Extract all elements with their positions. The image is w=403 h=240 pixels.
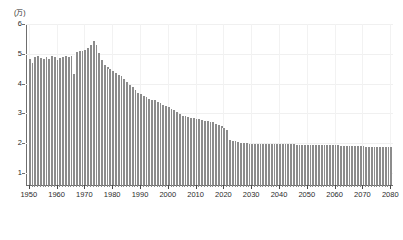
x-axis-tick-minor [201,185,202,187]
x-axis-tick-minor [329,185,330,187]
x-axis-tick-minor [298,185,299,187]
x-axis-tick-minor [312,185,313,187]
x-axis-tick-label: 2070 [354,191,371,199]
y-axis-tick-label: 5 [2,50,22,58]
x-axis-tick-minor [260,185,261,187]
x-axis-tick-label: 2030 [243,191,260,199]
x-axis-tick-minor [240,185,241,187]
x-axis-tick-minor [59,185,60,187]
x-axis-tick-minor [171,185,172,187]
x-axis-tick-minor [190,185,191,187]
x-axis-tick-minor [343,185,344,187]
x-axis-tick-major [112,185,113,189]
x-axis-tick-minor [374,185,375,187]
x-axis-tick-minor [354,185,355,187]
x-axis-tick-minor [198,185,199,187]
x-axis-tick-label: 2050 [298,191,315,199]
x-axis-tick-minor [271,185,272,187]
x-axis-tick-minor [123,185,124,187]
x-axis-tick-minor [318,185,319,187]
x-axis-tick-minor [134,185,135,187]
x-axis-tick-minor [268,185,269,187]
x-axis-tick-minor [276,185,277,187]
x-axis-tick-minor [126,185,127,187]
x-axis-tick-minor [254,185,255,187]
y-axis-tick-mark [22,143,25,144]
x-axis-tick-label: 2060 [326,191,343,199]
x-axis-tick-major [168,185,169,189]
x-axis-tick-label: 1950 [20,191,37,199]
x-axis-tick-minor [90,185,91,187]
x-axis-tick-minor [118,185,119,187]
x-axis-tick-minor [96,185,97,187]
x-axis-tick-minor [87,185,88,187]
x-axis-ticks: 1950196019701980199020002010202020302040… [26,185,393,211]
x-axis-tick-major [29,185,30,189]
x-axis-tick-minor [232,185,233,187]
x-axis-tick-label: 2020 [215,191,232,199]
x-axis-tick-minor [287,185,288,187]
x-axis-tick-major [196,185,197,189]
x-axis-tick-minor [43,185,44,187]
x-axis-tick-minor [332,185,333,187]
x-axis-tick-minor [76,185,77,187]
x-axis-tick-minor [187,185,188,187]
y-axis-tick-mark [22,113,25,114]
x-axis-tick-minor [387,185,388,187]
x-axis-tick-minor [282,185,283,187]
x-axis-tick-minor [210,185,211,187]
x-axis-tick-minor [132,185,133,187]
x-axis-tick-minor [237,185,238,187]
x-axis-tick-minor [257,185,258,187]
x-axis-tick-minor [98,185,99,187]
x-axis-tick-minor [321,185,322,187]
x-axis-tick-minor [51,185,52,187]
x-axis-tick-minor [121,185,122,187]
x-axis-tick-minor [176,185,177,187]
y-axis-tick-label: 2 [2,140,22,148]
x-axis-tick-minor [107,185,108,187]
x-axis-tick-minor [360,185,361,187]
y-axis-tick-label: 6 [2,20,22,28]
x-axis-tick-minor [323,185,324,187]
x-axis-tick-minor [248,185,249,187]
x-axis-tick-minor [79,185,80,187]
x-axis-tick-minor [385,185,386,187]
x-axis-tick-minor [301,185,302,187]
x-axis-tick-minor [115,185,116,187]
x-axis-tick-minor [179,185,180,187]
x-axis-tick-label: 1960 [48,191,65,199]
x-axis-tick-minor [159,185,160,187]
x-axis-tick-label: 2080 [382,191,399,199]
x-axis-tick-minor [273,185,274,187]
x-axis-tick-minor [368,185,369,187]
x-axis-tick-minor [109,185,110,187]
x-axis-tick-minor [215,185,216,187]
x-axis-tick-major [251,185,252,189]
x-axis-tick-minor [45,185,46,187]
x-axis-tick-minor [151,185,152,187]
x-axis-tick-minor [34,185,35,187]
x-axis-tick-minor [340,185,341,187]
x-axis-tick-minor [376,185,377,187]
x-axis-tick-minor [73,185,74,187]
x-axis-tick-minor [212,185,213,187]
y-axis-ticks: 123456 [0,24,22,186]
x-axis-tick-minor [148,185,149,187]
x-axis-tick-major [390,185,391,189]
y-axis-tick-label: 1 [2,169,22,177]
plot-inner [26,24,393,185]
x-axis-tick-label: 2000 [159,191,176,199]
x-axis-tick-major [84,185,85,189]
x-axis-tick-minor [357,185,358,187]
x-axis-tick-minor [304,185,305,187]
x-axis-tick-minor [265,185,266,187]
x-axis-tick-minor [65,185,66,187]
x-axis-tick-minor [365,185,366,187]
x-axis-tick-minor [310,185,311,187]
x-axis-tick-minor [218,185,219,187]
x-axis-tick-minor [162,185,163,187]
x-axis-tick-minor [235,185,236,187]
x-axis-tick-minor [337,185,338,187]
x-axis-tick-minor [293,185,294,187]
